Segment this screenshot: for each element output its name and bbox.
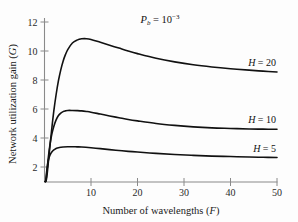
x-axis-tick-label: 10	[86, 187, 96, 198]
y-axis-title: Network utilization gain (G)	[7, 44, 19, 164]
y-axis-tick-label: 8	[33, 75, 38, 86]
series-label: H = 5	[252, 143, 276, 154]
axis-ticks-group	[41, 22, 278, 186]
figure-container: 246810121020304050 H = 20H = 10H = 5 Num…	[0, 0, 298, 222]
y-axis-tick-label: 4	[33, 133, 38, 144]
data-curves-group	[45, 39, 277, 182]
series-curve	[45, 110, 277, 181]
blocking-probability-annotation: Pb = 10−3	[139, 13, 180, 27]
series-label: H = 20	[247, 57, 276, 68]
y-axis-tick-label: 2	[33, 162, 38, 173]
x-axis-tick-label: 40	[226, 187, 236, 198]
series-label: H = 10	[247, 114, 276, 125]
y-axis-tick-label: 10	[28, 46, 38, 57]
y-axis-tick-label: 6	[33, 104, 38, 115]
axis-tick-labels-group: 246810121020304050	[28, 17, 283, 198]
chart-canvas: 246810121020304050 H = 20H = 10H = 5 Num…	[0, 0, 298, 222]
x-axis-tick-label: 50	[272, 187, 282, 198]
series-curve	[45, 147, 277, 182]
x-axis-tick-label: 30	[179, 187, 189, 198]
x-axis-title: Number of wavelengths (F)	[103, 205, 220, 217]
y-axis-tick-label: 12	[28, 17, 38, 28]
x-axis-tick-label: 20	[133, 187, 143, 198]
